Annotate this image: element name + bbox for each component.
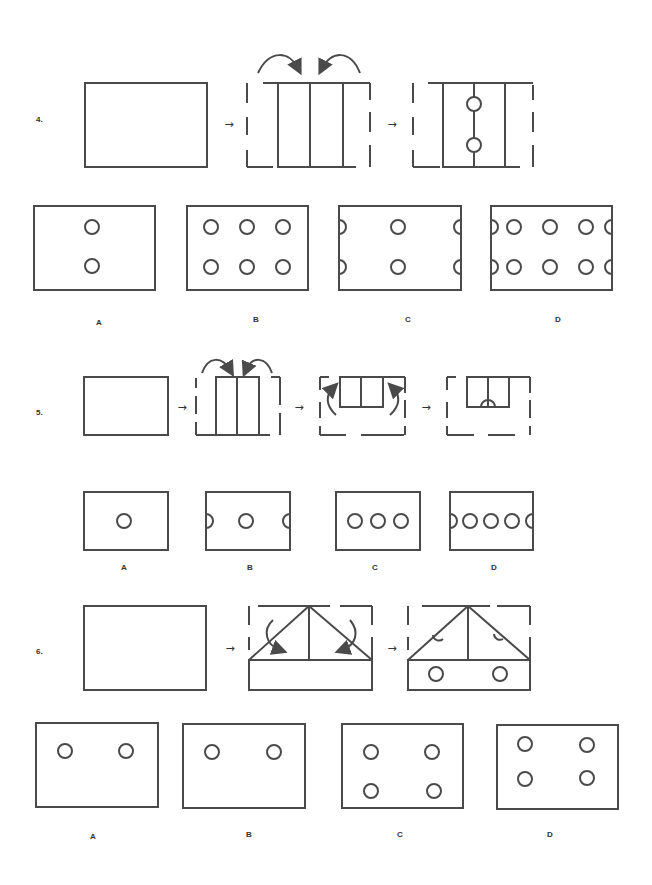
q4-option-d-label[interactable]: D [555, 315, 561, 324]
q5-arrow-1: → [177, 401, 186, 414]
q5-option-c-figure[interactable] [336, 492, 420, 550]
q5-option-a-label[interactable]: A [121, 563, 127, 572]
q5-arrow-3: → [421, 401, 430, 414]
q4-option-c-label[interactable]: C [405, 315, 411, 324]
q4-option-a-figure[interactable] [34, 206, 155, 290]
q5-option-d-figure[interactable] [450, 492, 533, 550]
q5-step4-punched [447, 377, 530, 435]
q6-option-b-figure[interactable] [183, 724, 305, 808]
q5-number: 5. [36, 408, 43, 417]
q6-step2-folding [249, 606, 372, 690]
q5-option-c-label[interactable]: C [372, 563, 378, 572]
q6-option-c-figure[interactable] [342, 724, 463, 808]
q4-option-b-label[interactable]: B [253, 315, 259, 324]
q4-step3-punched [413, 83, 533, 167]
q5-arrow-2: → [294, 401, 303, 414]
q6-option-a-figure[interactable] [36, 723, 158, 807]
q6-option-d-label[interactable]: D [547, 830, 553, 839]
q4-option-c-figure[interactable] [339, 206, 461, 290]
q4-option-a-label[interactable]: A [96, 318, 102, 327]
q6-option-b-label[interactable]: B [246, 830, 252, 839]
q5-step2-folding [196, 360, 280, 435]
q6-arrow-1: → [225, 642, 234, 655]
paper-folding-diagram [0, 0, 652, 885]
q5-step1-paper [84, 377, 168, 435]
q4-number: 4. [36, 115, 43, 124]
q6-step3-punched [408, 606, 530, 690]
q5-option-b-label[interactable]: B [247, 563, 253, 572]
q5-option-b-figure[interactable] [206, 492, 290, 550]
q6-number: 6. [36, 647, 43, 656]
q6-arrow-2: → [387, 642, 396, 655]
q6-option-c-label[interactable]: C [397, 830, 403, 839]
q4-step2-folding [247, 55, 370, 167]
q4-option-b-figure[interactable] [187, 206, 308, 290]
q4-arrow-2: → [387, 118, 396, 131]
q6-option-d-figure[interactable] [497, 725, 618, 809]
q6-step1-paper [84, 606, 206, 690]
q5-option-a-figure[interactable] [84, 492, 168, 550]
q5-option-d-label[interactable]: D [491, 563, 497, 572]
q5-step3-folding [320, 377, 405, 435]
q4-step1-paper [85, 83, 207, 167]
q6-option-a-label[interactable]: A [90, 832, 96, 841]
q4-arrow-1: → [224, 118, 233, 131]
q4-option-d-figure[interactable] [491, 206, 612, 290]
